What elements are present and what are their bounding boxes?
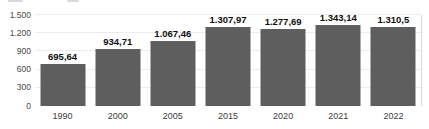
x-tick-label: 2022: [383, 111, 403, 121]
y-tick-label: 1.500: [0, 11, 31, 20]
bar-group: 1.310,52022: [366, 15, 421, 106]
bar: [150, 41, 195, 106]
y-tick-label: 300: [0, 83, 31, 92]
x-tick-label: 2000: [108, 111, 128, 121]
plot-area: 695,641990934,7120001.067,4620051.307,97…: [35, 15, 422, 106]
bar-group: 695,641990: [35, 15, 90, 106]
x-tick-label: 2021: [328, 111, 348, 121]
bar-group: 1.343,142021: [311, 15, 366, 106]
y-axis: 03006009001.2001.500: [0, 0, 31, 129]
bar-group: 1.277,692020: [256, 15, 311, 106]
bar-group: 1.067,462005: [145, 15, 200, 106]
bar: [371, 27, 416, 107]
y-tick-label: 0: [0, 102, 31, 111]
x-tick-label: 2020: [273, 111, 293, 121]
bar-value-label: 1.310,5: [378, 14, 410, 25]
bar-chart: 03006009001.2001.500 695,641990934,71200…: [0, 0, 429, 129]
bar-value-label: 1.277,69: [265, 16, 302, 27]
bar-value-label: 1.343,14: [320, 12, 357, 23]
bar-value-label: 695,64: [48, 51, 77, 62]
x-tick-label: 2005: [163, 111, 183, 121]
bar-group: 934,712000: [90, 15, 145, 106]
y-tick-label: 600: [0, 65, 31, 74]
bar-group: 1.307,972015: [200, 15, 255, 106]
bar-value-label: 1.307,97: [209, 14, 246, 25]
bar: [205, 27, 250, 106]
bar: [95, 49, 140, 106]
bar: [40, 64, 85, 106]
bar-value-label: 1.067,46: [154, 28, 191, 39]
y-tick-label: 900: [0, 47, 31, 56]
bar: [261, 29, 306, 107]
bar-value-label: 934,71: [103, 36, 132, 47]
cropped-text-remnant: [67, 0, 79, 2]
x-tick-label: 2015: [218, 111, 238, 121]
y-tick-label: 1.200: [0, 29, 31, 38]
x-tick-label: 1990: [53, 111, 73, 121]
bar: [316, 25, 361, 106]
